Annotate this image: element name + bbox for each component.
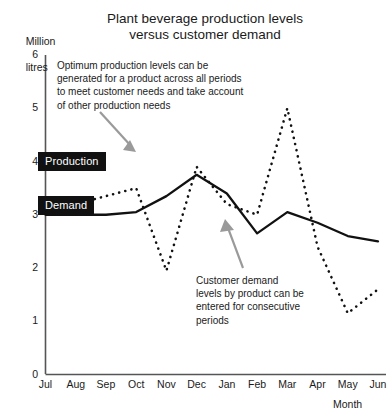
series-label-demand: Demand <box>38 196 94 215</box>
x-axis-tick-nov: Nov <box>149 378 183 390</box>
x-axis-tick-jun: Jun <box>361 378 392 390</box>
y-axis-tick-1: 1 <box>16 314 38 326</box>
chart-title-line-2: versus customer demand <box>129 27 281 42</box>
x-axis-tick-jul: Jul <box>29 378 63 390</box>
x-axis-tick-dec: Dec <box>180 378 214 390</box>
chart-container: Plant beverage production levels versus … <box>0 0 392 420</box>
x-axis-tick-mar: Mar <box>270 378 304 390</box>
y-axis-tick-3: 3 <box>16 208 38 220</box>
chart-title: Plant beverage production levels versus … <box>60 11 350 44</box>
y-axis-tick-6: 6 <box>16 48 38 60</box>
annotation-arrow-production-shaft <box>100 112 131 146</box>
y-axis-title-line-2: litres <box>26 61 48 73</box>
y-axis-tick-2: 2 <box>16 261 38 273</box>
x-axis-tick-may: May <box>331 378 365 390</box>
y-axis-tick-5: 5 <box>16 101 38 113</box>
annotation-arrow-demand-head <box>220 219 234 232</box>
series-line-production <box>46 175 379 242</box>
x-axis-tick-jan: Jan <box>210 378 244 390</box>
annotation-arrow-demand-shaft-2 <box>228 228 243 268</box>
annotation-arrow-production-head <box>123 140 136 152</box>
x-axis-tick-aug: Aug <box>59 378 93 390</box>
x-axis-tick-apr: Apr <box>301 378 335 390</box>
y-axis-title-line-1: Million <box>26 35 56 47</box>
x-axis-tick-feb: Feb <box>240 378 274 390</box>
y-axis-tick-4: 4 <box>16 155 38 167</box>
chart-title-line-1: Plant beverage production levels <box>107 11 303 26</box>
annotation-production: Optimum production levels can be generat… <box>57 59 247 112</box>
series-label-production: Production <box>38 152 106 171</box>
x-axis-tick-oct: Oct <box>119 378 153 390</box>
x-axis-title: Month <box>333 398 362 411</box>
x-axis-tick-sep: Sep <box>89 378 123 390</box>
annotation-demand: Customer demand levels by product can be… <box>196 274 306 327</box>
